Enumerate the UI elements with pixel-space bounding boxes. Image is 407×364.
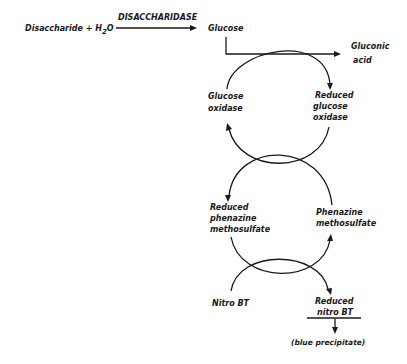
arrow-head-icon (334, 51, 341, 57)
reduced-pms-label-2: phenazine (209, 214, 257, 223)
reduced-pms-label-3: methosulfate (210, 225, 271, 234)
reduced-gox-label-1: Reduced (315, 91, 354, 100)
reduced-nbt-label-1: Reduced (315, 297, 354, 306)
substrate-label: Disaccharide + H2O (25, 24, 114, 36)
precipitate-arrow (307, 318, 361, 334)
nitro-bt-label: Nitro BT (212, 299, 250, 308)
arrow-head-icon (226, 123, 232, 131)
gox-regeneration-arc (229, 127, 329, 163)
cycle3-arcs (231, 234, 333, 295)
disaccharidase-label: DISACCHARIDASE (118, 13, 198, 22)
reduced-pms-label-1: Reduced (210, 203, 249, 212)
oxidase-arc (227, 51, 330, 89)
pms-label-1: Phenazine (316, 208, 363, 217)
gluconic-pathway: Gluconic acid (226, 37, 390, 65)
disaccharide-reaction: Disaccharide + H2O DISACCHARIDASE Glucos… (25, 13, 244, 36)
pms-reduction-arc (229, 155, 332, 205)
arrow-head-icon (225, 195, 231, 202)
arrow-head-icon (327, 234, 333, 241)
arrow-head-icon (190, 25, 197, 31)
gluconic-label-line1: Gluconic (351, 42, 390, 51)
reduced-gox-label-2: glucose (313, 102, 348, 111)
reduced-gox-label-3: oxidase (313, 113, 348, 122)
glucose-oxidase-label-2: oxidase (208, 104, 243, 113)
gluconic-label-line2: acid (353, 56, 372, 65)
arrow-head-icon (326, 288, 332, 295)
pms-label-2: methosulfate (316, 219, 377, 228)
glucose-label: Glucose (208, 24, 244, 33)
glucose-oxidase-label-1: Glucose (208, 92, 244, 101)
enzyme-reaction-diagram: Disaccharide + H2O DISACCHARIDASE Glucos… (0, 0, 407, 364)
blue-precipitate-label: (blue precipitate) (291, 338, 365, 347)
reduced-nbt-label-2: nitro BT (317, 308, 354, 317)
cycle1-arc (227, 51, 333, 90)
arrow-head-icon (332, 327, 338, 334)
arrow-head-icon (327, 83, 333, 90)
cycle2-arcs (225, 123, 332, 205)
